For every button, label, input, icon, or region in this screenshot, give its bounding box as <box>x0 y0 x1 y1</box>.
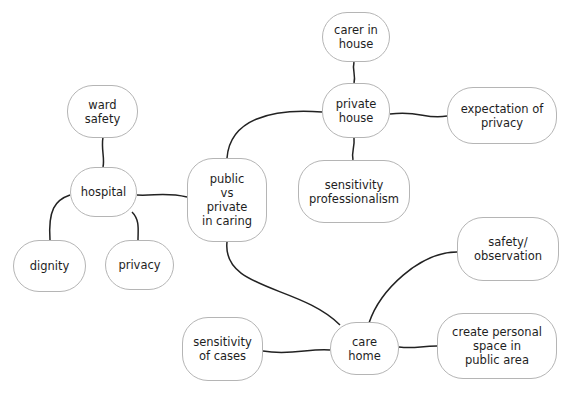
node-label: public vs private in caring <box>202 172 252 228</box>
node-ward-safety[interactable]: ward safety <box>67 85 138 138</box>
node-label: privacy <box>118 258 160 272</box>
node-hospital[interactable]: hospital <box>70 167 137 217</box>
edge-care_home-safety_observation <box>369 252 457 323</box>
node-dignity[interactable]: dignity <box>13 240 86 292</box>
node-safety-observation[interactable]: safety/ observation <box>457 217 559 281</box>
edge-care_home-create_personal_space <box>399 346 437 348</box>
node-label: safety/ observation <box>474 235 542 263</box>
node-label: private house <box>336 97 377 125</box>
edge-center-hospital <box>137 194 187 197</box>
node-label: carer in house <box>334 23 378 51</box>
node-label: expectation of privacy <box>461 102 544 130</box>
edge-private_house-expectation_of_privacy <box>390 113 447 117</box>
node-private-house[interactable]: private house <box>322 83 390 138</box>
node-label: hospital <box>81 185 127 199</box>
node-carer-in-house[interactable]: carer in house <box>322 12 390 62</box>
node-center-public-vs-private[interactable]: public vs private in caring <box>187 158 267 242</box>
edge-hospital-ward_safety <box>102 137 103 167</box>
node-label: care home <box>348 335 381 363</box>
node-sensitivity-professionalism[interactable]: sensitivity professionalism <box>298 160 410 223</box>
node-care-home[interactable]: care home <box>330 322 399 375</box>
edge-center-care_home <box>227 242 340 325</box>
edge-hospital-privacy <box>132 212 138 240</box>
node-label: dignity <box>30 259 70 273</box>
node-privacy[interactable]: privacy <box>105 240 174 290</box>
edge-hospital-dignity <box>50 195 70 240</box>
edge-private_house-carer_in_house <box>353 62 354 83</box>
edge-private_house-sensitivity_professionalism <box>352 138 354 160</box>
node-sensitivity-of-cases[interactable]: sensitivity of cases <box>182 317 263 381</box>
node-label: sensitivity professionalism <box>309 178 399 206</box>
node-label: create personal space in public area <box>452 325 542 367</box>
node-create-personal-space[interactable]: create personal space in public area <box>437 313 557 379</box>
node-label: ward safety <box>85 98 120 126</box>
node-label: sensitivity of cases <box>193 335 252 363</box>
node-expectation-of-privacy[interactable]: expectation of privacy <box>447 87 557 144</box>
edge-care_home-sensitivity_of_cases <box>263 350 330 353</box>
edge-center-private_house <box>227 111 322 158</box>
